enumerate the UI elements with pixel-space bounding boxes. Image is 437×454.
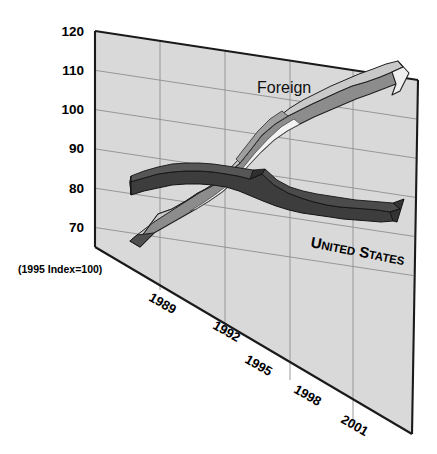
xtick-1995: 1995 (243, 352, 276, 379)
axis-note-index-base: (1995 Index=100) (18, 263, 102, 275)
y-axis-labels: 120 110 100 90 80 70 (61, 24, 84, 235)
3d-area-chart: 120 110 100 90 80 70 (1995 Index=100) 19… (0, 0, 437, 454)
ytick-120: 120 (61, 24, 84, 39)
ytick-100: 100 (61, 102, 84, 117)
xtick-2001: 2001 (339, 412, 372, 439)
ytick-70: 70 (69, 220, 84, 235)
ytick-110: 110 (62, 63, 84, 78)
series-label-foreign: Foreign (257, 79, 311, 96)
ytick-90: 90 (69, 141, 84, 156)
chart-container: 120 110 100 90 80 70 (1995 Index=100) 19… (0, 0, 437, 454)
ytick-80: 80 (69, 181, 84, 196)
xtick-1998: 1998 (292, 382, 325, 409)
